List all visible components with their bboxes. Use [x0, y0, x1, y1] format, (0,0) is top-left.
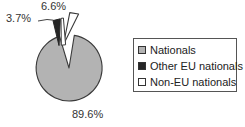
legend-item-nationals: Nationals	[138, 42, 232, 58]
legend-label-other-eu-nationals: Other EU nationals	[150, 60, 243, 72]
pie-slice-nationals	[36, 35, 102, 101]
pie-slice-divider	[61, 18, 66, 45]
white-swatch	[138, 78, 146, 86]
pie-plot-area: 3.7% 6.6% 89.6%	[0, 0, 130, 127]
legend-item-non-eu-nationals: Non-EU nationals	[138, 74, 232, 90]
black-swatch	[138, 62, 146, 70]
data-label-nationals: 89.6%	[72, 108, 103, 120]
data-label-other-eu: 3.7%	[6, 12, 31, 24]
legend-label-non-eu-nationals: Non-EU nationals	[150, 76, 236, 88]
legend: Nationals Other EU nationals Non-EU nati…	[133, 38, 237, 92]
leader-line-other-eu	[38, 20, 54, 22]
gray-swatch	[138, 46, 146, 54]
legend-item-other-eu-nationals: Other EU nationals	[138, 58, 232, 74]
data-label-non-eu: 6.6%	[41, 0, 66, 12]
legend-label-nationals: Nationals	[150, 44, 196, 56]
pie-chart-figure: 3.7% 6.6% 89.6% Nationals Other EU natio…	[0, 0, 245, 127]
